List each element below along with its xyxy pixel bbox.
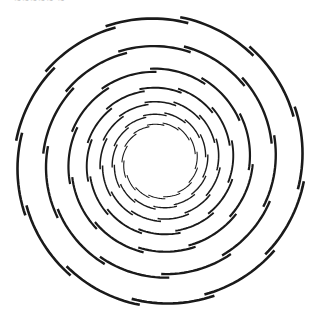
ring-7-arc-segment (190, 138, 195, 155)
ring-7-arc-segment (148, 195, 165, 199)
ring-1-arc-segment (46, 27, 116, 71)
ring-1-arc-segment (106, 18, 189, 26)
ring-3-arc-segment (201, 78, 239, 121)
ring-4-arc-segment (88, 108, 112, 143)
ring-5-arc-segment (206, 167, 220, 195)
ring-2-arc-segment (161, 254, 231, 274)
ring-1-arc-segment (265, 181, 304, 254)
ring-7-arc-segment (147, 124, 164, 125)
ring-1-arc-segment (249, 47, 293, 117)
ring-3-arc-segment (95, 222, 144, 252)
ring-4-arc-segment (228, 140, 233, 182)
ring-1-arc-segment (132, 296, 215, 304)
ring-6-arc-segment (125, 117, 146, 127)
ring-4-arc-segment (208, 179, 232, 214)
ring-6-arc-segment (200, 134, 205, 157)
ring-3-arc-segment (240, 114, 250, 171)
ring-2-arc-segment (66, 53, 127, 92)
ring-7-arc-segment (122, 146, 128, 162)
ring-4-arc-segment (175, 213, 213, 231)
ring-5-arc-segment (111, 192, 133, 215)
ring-3-arc-segment (68, 127, 77, 184)
ring-7-arc-segment (134, 127, 150, 134)
ring-6-arc-segment (114, 165, 119, 188)
ring-7-arc-segment (127, 175, 136, 190)
ring-6-arc-segment (174, 194, 195, 204)
ring-6-arc-segment (203, 155, 208, 178)
ring-3-arc-segment (138, 247, 195, 252)
ring-7-arc-segment (177, 182, 191, 192)
ring-5-arc-segment (119, 105, 148, 117)
ring-1-arc-segment (295, 107, 303, 190)
ring-4-arc-segment (138, 229, 180, 234)
ring-2-arc-segment (43, 88, 74, 154)
ring-3-arc-segment (72, 177, 97, 229)
ring-2-arc-segment (263, 135, 275, 207)
ring-1-arc-segment (26, 205, 70, 275)
ring-6-arc-segment (112, 145, 117, 168)
ring-7-arc-segment (163, 193, 180, 196)
ring-6-arc-segment (191, 176, 206, 194)
ring-4-arc-segment (139, 88, 181, 93)
ring-6-arc-segment (134, 199, 155, 209)
ring-3-arc-segment (72, 88, 109, 132)
ring-7-arc-segment (163, 123, 179, 130)
ring-5-arc-segment (145, 102, 177, 106)
ring-6-arc-segment (185, 120, 200, 138)
ring-1-arc-segment (180, 17, 253, 56)
ring-2-arc-segment (46, 146, 58, 218)
ring-5-arc-segment (100, 138, 107, 169)
ring-4-arc-segment (107, 209, 142, 233)
ring-5-arc-segment (103, 116, 123, 140)
spiral-illusion-figure (0, 0, 321, 323)
ring-4-arc-segment (87, 139, 92, 181)
ring-5-arc-segment (103, 166, 111, 197)
ring-3-arc-segment (150, 69, 205, 84)
ring-3-arc-segment (188, 214, 236, 246)
ring-2-arc-segment (184, 46, 245, 86)
ring-7-arc-segment (178, 127, 189, 140)
ring-1-arc-segment (17, 133, 25, 216)
ring-group (16, 17, 304, 305)
ring-5-arc-segment (185, 195, 211, 214)
ring-6-arc-segment (164, 113, 185, 123)
ring-7-arc-segment (125, 134, 137, 147)
ring-7-arc-segment (124, 160, 126, 177)
ring-5-arc-segment (131, 211, 161, 222)
ring-5-arc-segment (216, 139, 219, 171)
ring-1-arc-segment (204, 250, 274, 294)
ring-6-arc-segment (143, 114, 167, 116)
ring-2-arc-segment (58, 209, 105, 264)
ring-5-arc-segment (158, 214, 189, 219)
ring-2-arc-segment (118, 46, 190, 52)
ring-7-arc-segment (189, 168, 198, 183)
ring-3-arc-segment (102, 72, 157, 89)
ring-6-arc-segment (153, 206, 177, 208)
ring-2-arc-segment (222, 201, 270, 255)
ring-4-arc-segment (178, 89, 213, 113)
ring-7-arc-segment (195, 152, 197, 169)
ring-7-arc-segment (136, 187, 150, 197)
ring-2-arc-segment (100, 257, 169, 278)
ring-3-arc-segment (230, 164, 253, 216)
